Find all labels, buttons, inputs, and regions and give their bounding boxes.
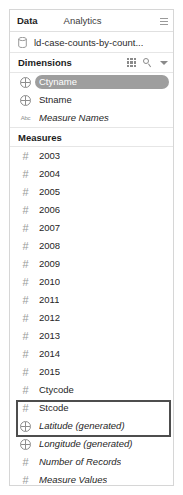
measure-field-row[interactable]: #2008 (10, 237, 173, 255)
abc-icon: Abc (19, 112, 32, 124)
hash-icon: # (19, 456, 32, 468)
tab-analytics[interactable]: Analytics (64, 15, 102, 26)
measures-field-list: #2003#2004#2005#2006#2007#2008#2009#2010… (10, 147, 173, 486)
measure-field-row[interactable]: #2007 (10, 219, 173, 237)
datasource-row[interactable]: ld-case-counts-by-count... (10, 32, 173, 53)
hash-icon: # (19, 258, 32, 270)
field-label: 2006 (39, 204, 60, 216)
field-label: Ctycode (39, 384, 74, 396)
hash-icon: # (19, 240, 32, 252)
grid-view-icon[interactable] (127, 58, 136, 67)
hash-icon: # (19, 294, 32, 306)
field-label: 2011 (39, 294, 59, 306)
field-label: 2004 (39, 168, 60, 180)
field-label: 2014 (39, 348, 60, 360)
hash-icon: # (19, 330, 32, 342)
sort-icon[interactable] (159, 15, 169, 27)
field-label: 2009 (39, 258, 60, 270)
field-label: Measure Values (39, 474, 107, 486)
field-label: Longitude (generated) (39, 438, 133, 450)
field-label: Measure Names (39, 112, 109, 124)
hash-icon: # (19, 348, 32, 360)
globe-icon (19, 438, 32, 450)
field-label: 2015 (39, 366, 60, 378)
dimension-field-row[interactable]: Ctyname (10, 73, 173, 91)
hash-icon: # (19, 222, 32, 234)
field-label: Stname (39, 94, 72, 106)
field-label: 2008 (39, 240, 60, 252)
field-label: Number of Records (39, 456, 121, 468)
dimension-field-row[interactable]: AbcMeasure Names (10, 109, 173, 127)
field-label: Stcode (39, 402, 69, 414)
hash-icon: # (19, 276, 32, 288)
field-label: 2005 (39, 186, 60, 198)
dimensions-field-list: CtynameStnameAbcMeasure Names (10, 73, 173, 127)
field-label: 2003 (39, 150, 60, 162)
globe-icon (19, 94, 32, 106)
measure-field-row[interactable]: #2014 (10, 345, 173, 363)
hash-icon: # (19, 402, 32, 414)
dimension-field-row[interactable]: Stname (10, 91, 173, 109)
hash-icon: # (19, 474, 32, 486)
measure-field-row[interactable]: #2004 (10, 165, 173, 183)
dimensions-title: Dimensions (18, 57, 72, 68)
hash-icon: # (19, 186, 32, 198)
measure-field-row[interactable]: #2015 (10, 363, 173, 381)
measure-field-row[interactable]: #2010 (10, 273, 173, 291)
search-icon[interactable] (143, 58, 153, 68)
measure-field-row[interactable]: #2013 (10, 327, 173, 345)
datasource-name: ld-case-counts-by-count... (34, 37, 143, 48)
field-label: 2010 (39, 276, 60, 288)
measure-field-row[interactable]: #Measure Values (10, 471, 173, 486)
database-icon (18, 37, 27, 48)
field-label: 2012 (39, 312, 60, 324)
pane-tabstrip: Data Analytics (10, 10, 173, 32)
measures-title: Measures (18, 132, 62, 143)
dimensions-header: Dimensions (10, 53, 173, 73)
measure-field-row[interactable]: #2005 (10, 183, 173, 201)
hash-icon: # (19, 204, 32, 216)
measure-field-row[interactable]: #Ctycode (10, 381, 173, 399)
measure-field-row[interactable]: #Stcode (10, 399, 173, 417)
measures-header: Measures (10, 127, 173, 147)
dimensions-tools (127, 58, 168, 68)
data-pane: Data Analytics ld-case-counts-by-count..… (9, 9, 174, 486)
measure-field-row[interactable]: #Number of Records (10, 453, 173, 471)
field-label: 2007 (39, 222, 60, 234)
field-label: Latitude (generated) (39, 420, 125, 432)
tab-data[interactable]: Data (17, 15, 38, 26)
hash-icon: # (19, 384, 32, 396)
hash-icon: # (19, 312, 32, 324)
field-label: Ctyname (39, 76, 77, 88)
measure-field-row[interactable]: #2006 (10, 201, 173, 219)
measure-field-row[interactable]: Longitude (generated) (10, 435, 173, 453)
measure-field-row[interactable]: #2012 (10, 309, 173, 327)
hash-icon: # (19, 366, 32, 378)
globe-icon (19, 420, 32, 432)
field-label: 2013 (39, 330, 60, 342)
globe-icon (19, 76, 32, 88)
measure-field-row[interactable]: #2003 (10, 147, 173, 165)
hash-icon: # (19, 168, 32, 180)
measure-field-row[interactable]: Latitude (generated) (10, 417, 173, 435)
measure-field-row[interactable]: #2009 (10, 255, 173, 273)
hash-icon: # (19, 150, 32, 162)
measure-field-row[interactable]: #2011 (10, 291, 173, 309)
chevron-down-icon[interactable] (160, 61, 168, 65)
